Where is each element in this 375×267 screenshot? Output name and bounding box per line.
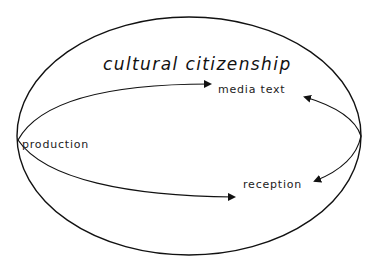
arrow-to-media-text-from-right — [305, 97, 361, 136]
node-media-text: media text — [218, 83, 285, 96]
node-reception: reception — [243, 178, 302, 191]
diagram-title: cultural citizenship — [103, 54, 292, 74]
cultural-citizenship-ellipse — [17, 17, 361, 255]
diagram-canvas — [0, 0, 375, 267]
arrow-production-to-media-text — [18, 84, 210, 140]
node-production: production — [22, 138, 89, 151]
arrow-to-reception-from-right — [315, 136, 361, 181]
